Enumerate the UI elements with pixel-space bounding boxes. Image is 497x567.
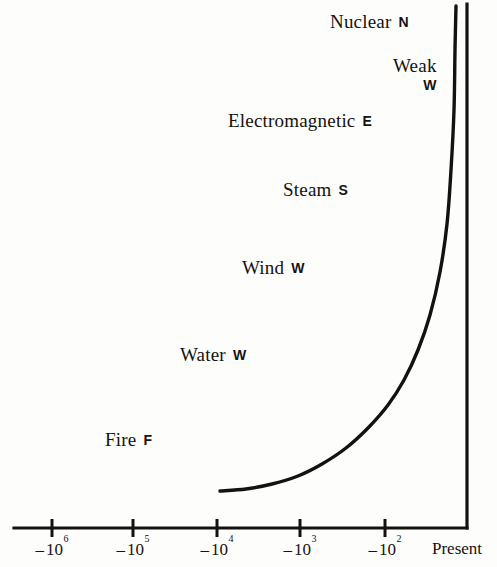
- annotation-nuclear: NuclearN: [330, 12, 409, 32]
- annotation-nuclear-symbol: N: [399, 14, 409, 30]
- annotation-weak-text: Weak: [393, 55, 437, 76]
- tick-label-exponent: 2: [397, 533, 402, 544]
- tick-label-base: 10: [211, 540, 228, 559]
- annotation-wind: WindW: [242, 258, 304, 278]
- tick-label-exponent: 3: [312, 533, 317, 544]
- annotation-water-symbol: W: [233, 347, 246, 363]
- tick-label-base: 10: [46, 540, 63, 559]
- tick-label-base: 10: [127, 540, 144, 559]
- annotation-fire-text: Fire: [105, 429, 136, 450]
- x-axis-tick-label: –105: [117, 539, 150, 560]
- tick-label-exponent: 5: [145, 533, 150, 544]
- energy-growth-figure: NuclearN WeakW ElectromagneticE SteamS W…: [0, 0, 497, 567]
- annotation-steam-text: Steam: [283, 179, 332, 200]
- tick-label-base: 10: [379, 540, 396, 559]
- annotation-electromagnetic: ElectromagneticE: [228, 111, 372, 131]
- annotation-water: WaterW: [180, 345, 246, 365]
- annotation-steam: SteamS: [283, 180, 348, 200]
- annotation-electromagnetic-symbol: E: [363, 113, 372, 129]
- x-axis-tick-label: –106: [36, 539, 69, 560]
- annotation-fire: FireF: [105, 430, 152, 450]
- tick-label-sign: –: [36, 540, 45, 559]
- tick-label-exponent: 6: [64, 533, 69, 544]
- tick-label-sign: –: [369, 540, 378, 559]
- x-axis-tick-label: –102: [369, 539, 402, 560]
- annotation-wind-symbol: W: [291, 260, 304, 276]
- x-axis-tick-label: –103: [284, 539, 317, 560]
- tick-label-sign: –: [117, 540, 126, 559]
- annotation-weak-symbol: W: [393, 78, 437, 93]
- x-axis-present-label: Present: [432, 539, 482, 559]
- annotation-water-text: Water: [180, 344, 226, 365]
- tick-label-sign: –: [201, 540, 210, 559]
- annotation-nuclear-text: Nuclear: [330, 11, 392, 32]
- annotation-steam-symbol: S: [339, 182, 348, 198]
- annotation-fire-symbol: F: [143, 432, 152, 448]
- x-axis-tick-label: –104: [201, 539, 234, 560]
- annotation-electromagnetic-text: Electromagnetic: [228, 110, 356, 131]
- annotation-wind-text: Wind: [242, 257, 284, 278]
- tick-label-base: 10: [294, 540, 311, 559]
- tick-label-sign: –: [284, 540, 293, 559]
- annotation-weak: WeakW: [393, 56, 437, 94]
- tick-label-exponent: 4: [229, 533, 234, 544]
